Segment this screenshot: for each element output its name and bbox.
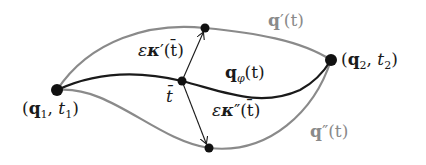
label-q-phi: qφ(t) [225,64,265,84]
q-symbol: q [29,98,41,118]
label-kappa-prime: εκ′(t̄) [138,42,184,59]
q-subscript: 2 [360,59,367,72]
label-q-prime: q′(t) [268,12,304,29]
phi-subscript: φ [237,72,245,85]
label-q-double-prime: q″(t) [310,123,348,140]
variation-diagram: (q1, t1) (q2, t2) t̄ qφ(t) q′(t) q″(t) ε… [0,0,426,165]
prime-t: ′(t) [280,10,304,30]
kappa-symbol: κ [147,40,160,60]
epsilon-symbol: ε [138,40,147,60]
curve-q-double-prime [57,60,331,149]
q-subscript: 1 [41,108,48,121]
label-mid-t: t̄ [166,88,173,105]
label-start-point: (q1, t1) [22,100,79,120]
comma: , [48,98,59,118]
arrow-kappa-double-prime [182,81,206,143]
q-symbol: q [310,121,322,141]
paren-close: ) [72,98,79,118]
point-mid [178,77,187,86]
paren-t: (t) [245,62,265,82]
arrow-kappa-prime [182,33,203,81]
curve-q-phi [57,60,331,98]
paren-open: ( [341,49,348,69]
double-prime-t-bar: ″(t̄) [234,100,260,120]
kappa-symbol: κ [221,100,234,120]
epsilon-symbol: ε [212,100,221,120]
q-symbol: q [268,10,280,30]
paren-open: ( [22,98,29,118]
label-end-point: (q2, t2) [341,51,398,71]
paren-close: ) [391,49,398,69]
q-symbol: q [225,62,237,82]
comma: , [367,49,378,69]
double-prime-t: ″(t) [322,121,348,141]
point-upper [201,24,210,33]
curve-q-prime [57,27,331,90]
diagram-canvas [0,0,426,165]
point-end [325,54,337,66]
point-lower [205,144,214,153]
q-symbol: q [348,49,360,69]
label-kappa-double-prime: εκ″(t̄) [212,102,260,119]
prime-t-bar: ′(t̄) [160,40,184,60]
point-start [51,84,63,96]
